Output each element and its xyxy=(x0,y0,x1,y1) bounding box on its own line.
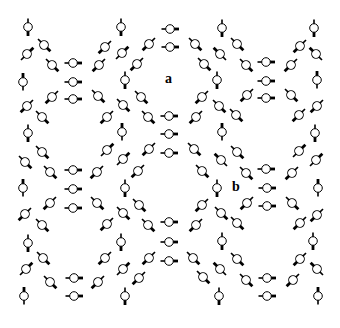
molecule-body xyxy=(309,237,318,246)
molecule-body xyxy=(165,238,174,247)
dipole-molecule xyxy=(213,180,222,198)
dipole-molecule xyxy=(43,56,61,74)
dipole-molecule xyxy=(187,216,205,234)
molecule-body xyxy=(69,95,78,104)
molecule-body xyxy=(263,184,272,193)
dipole-molecule xyxy=(18,45,36,63)
molecule-body xyxy=(166,25,175,34)
dipole-molecule xyxy=(114,96,132,114)
dipole-molecule xyxy=(195,55,213,73)
dipole-molecule xyxy=(117,19,126,37)
molecule-body xyxy=(311,129,320,138)
molecule-body xyxy=(117,23,126,32)
dipole-molecule xyxy=(227,106,245,124)
molecule-body xyxy=(121,292,130,301)
lattice-diagram xyxy=(0,0,340,328)
molecule-body xyxy=(262,58,271,67)
dipole-molecule xyxy=(211,45,229,63)
molecule-body xyxy=(20,292,29,301)
dipole-molecule xyxy=(218,123,227,141)
molecule-body xyxy=(213,76,222,85)
dipole-molecule xyxy=(212,151,230,169)
dipole-molecule xyxy=(24,235,33,253)
dipole-molecule xyxy=(113,44,131,62)
molecule-body xyxy=(213,184,222,193)
molecule-body xyxy=(263,292,272,301)
molecule-body xyxy=(262,77,271,86)
dipole-molecule xyxy=(117,234,126,252)
dipole-molecule xyxy=(184,249,202,267)
dipole-molecule xyxy=(215,288,224,306)
molecule-body xyxy=(69,166,78,175)
dipole-molecule xyxy=(121,180,130,198)
dipole-molecule xyxy=(258,165,276,174)
molecule-body xyxy=(24,239,33,248)
site-label-a: a xyxy=(165,72,172,86)
dipole-molecule xyxy=(185,140,203,158)
dipole-molecule xyxy=(65,59,83,68)
dipole-molecule xyxy=(114,150,132,168)
dipole-molecule xyxy=(308,260,326,278)
dipole-molecule xyxy=(187,108,205,126)
site-label-b: b xyxy=(232,180,240,194)
dipole-molecule xyxy=(41,194,59,212)
dipole-molecule xyxy=(194,268,212,286)
molecule-body xyxy=(121,184,130,193)
molecule-body xyxy=(121,76,130,85)
molecule-body xyxy=(218,237,227,246)
molecule-body xyxy=(314,292,323,301)
dipole-molecule xyxy=(228,143,246,161)
dipole-molecule xyxy=(139,216,157,234)
dipole-molecule xyxy=(128,55,146,73)
dipole-molecule xyxy=(161,130,179,139)
dipole-molecule xyxy=(16,153,34,171)
dipole-molecule xyxy=(98,108,116,126)
dipole-molecule xyxy=(291,37,309,55)
dipole-molecule xyxy=(89,273,107,291)
dipole-molecule xyxy=(130,196,148,214)
dipole-molecule xyxy=(193,88,211,106)
dipole-molecule xyxy=(309,233,318,251)
molecule-body xyxy=(314,184,323,193)
dipole-molecule xyxy=(66,292,84,301)
dipole-molecule xyxy=(258,58,276,67)
molecule-body xyxy=(69,204,78,213)
dipole-molecule xyxy=(88,163,106,181)
dipole-molecule xyxy=(238,194,256,212)
molecule-body xyxy=(69,185,78,194)
dipole-molecule xyxy=(314,287,323,305)
dipole-molecule xyxy=(259,184,277,193)
molecule-body xyxy=(215,292,224,301)
dipole-molecule xyxy=(314,179,323,197)
dipole-molecule xyxy=(228,35,246,53)
dipole-molecule xyxy=(140,35,158,53)
dipole-molecule xyxy=(186,35,204,53)
dipole-molecule xyxy=(41,273,59,291)
molecule-body xyxy=(262,165,271,174)
molecule-body xyxy=(165,130,174,139)
molecule-body xyxy=(165,218,174,227)
dipole-molecule xyxy=(308,97,326,115)
dipole-molecule xyxy=(65,95,83,104)
dipole-molecule xyxy=(193,162,211,180)
dipole-molecule xyxy=(19,179,28,197)
dipole-molecule xyxy=(24,125,33,143)
dipole-molecule xyxy=(90,56,108,74)
dipole-molecule xyxy=(114,260,132,278)
dipole-molecule xyxy=(33,216,51,234)
molecule-body xyxy=(118,128,127,137)
dipole-molecule xyxy=(121,288,130,306)
dipole-molecule xyxy=(258,94,276,103)
dipole-molecule xyxy=(237,271,255,289)
dipole-molecule xyxy=(162,25,180,34)
molecule-body xyxy=(70,292,79,301)
dipole-molecule xyxy=(114,204,132,222)
molecule-body xyxy=(218,128,227,137)
dipole-molecule xyxy=(307,45,325,63)
molecule-body xyxy=(165,149,174,158)
dipole-molecule xyxy=(218,20,227,38)
dipole-molecule xyxy=(228,214,246,232)
dipole-molecule xyxy=(20,287,29,305)
molecule-body xyxy=(19,184,28,193)
molecule-body xyxy=(262,94,271,103)
